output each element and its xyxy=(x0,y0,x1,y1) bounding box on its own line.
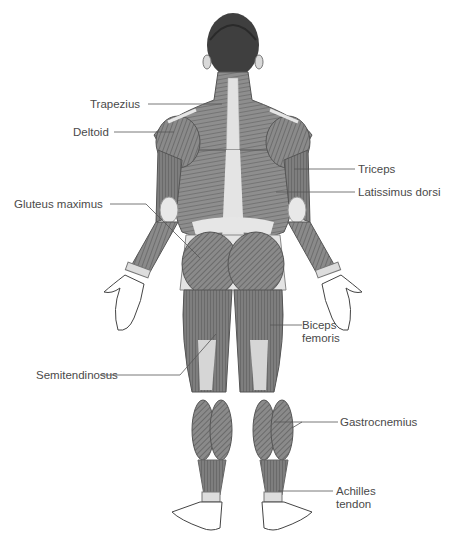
label-achilles-1: Achilles xyxy=(336,484,376,498)
label-semitendinosus: Semitendinosus xyxy=(36,368,118,382)
label-deltoid: Deltoid xyxy=(73,125,109,139)
label-trapezius: Trapezius xyxy=(90,97,140,111)
label-gluteus-maximus: Gluteus maximus xyxy=(14,197,103,211)
thigh-muscles xyxy=(183,290,283,392)
label-gastrocnemius: Gastrocnemius xyxy=(340,415,417,429)
muscle-figure xyxy=(0,0,462,544)
gastrocnemius-muscle xyxy=(192,400,293,495)
label-biceps-femoris-2: femoris xyxy=(302,331,340,345)
label-achilles-2: tendon xyxy=(336,497,371,511)
head xyxy=(203,13,263,77)
feet xyxy=(172,492,312,530)
label-latissimus-dorsi: Latissimus dorsi xyxy=(358,185,440,199)
label-triceps: Triceps xyxy=(358,162,395,176)
gluteus-maximus-muscle xyxy=(180,232,286,296)
label-biceps-femoris-1: Biceps xyxy=(302,318,337,332)
